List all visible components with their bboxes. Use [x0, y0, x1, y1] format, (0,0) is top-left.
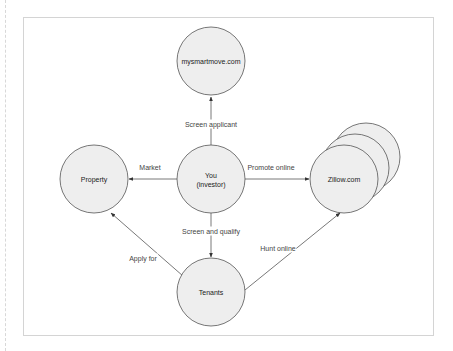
node-sublabel-investor: (investor) [196, 180, 225, 189]
edge-label-hunt-online: Hunt online [259, 244, 296, 253]
node-label-you: You [205, 171, 217, 180]
edge-label-screen-applicant: Screen applicant [184, 120, 238, 129]
edge-label-market: Market [138, 163, 161, 172]
edge-label-screen-and-qualify: Screen and qualify [181, 227, 241, 236]
edge-label-promote-online: Promote online [246, 163, 295, 172]
node-label-tenants: Tenants [199, 288, 224, 297]
edge-label-apply-for: Apply for [128, 254, 158, 263]
diagram-canvas [0, 0, 453, 351]
node-label-property: Property [81, 175, 107, 184]
node-label-mysmartmove: mysmartmove.com [181, 57, 240, 66]
edge-apply-for[interactable] [111, 213, 183, 276]
node-label-zillow: Zillow.com [328, 175, 361, 184]
node-zillow-stack[interactable] [310, 123, 400, 213]
